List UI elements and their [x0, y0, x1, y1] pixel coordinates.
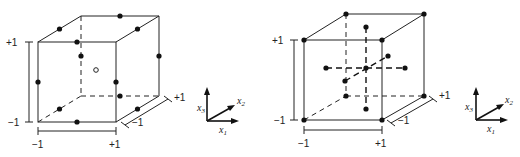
center-point	[94, 68, 99, 73]
right-cube-points	[301, 11, 426, 122]
axis-label-x1: x1	[486, 123, 495, 136]
right-axes-triad	[473, 87, 508, 123]
axis-label-x2: x2	[236, 95, 245, 108]
label-x-min: −1	[32, 139, 44, 150]
x-range-bracket	[304, 126, 382, 134]
diagram-canvas: +1 −1 −1 +1 −1 +1 x3 x2 x1	[0, 0, 520, 157]
label-z-max: +1	[6, 37, 18, 48]
center-point	[363, 65, 368, 70]
label-x-max: +1	[109, 139, 121, 150]
axis-label-x1: x1	[218, 124, 227, 137]
y-range-bracket	[121, 96, 172, 128]
left-cube-points	[35, 13, 161, 124]
z-range-bracket	[290, 40, 298, 120]
x-range-bracket	[38, 127, 116, 135]
axis-label-x3: x3	[196, 102, 205, 115]
y-range-bracket	[387, 96, 437, 126]
label-y-max: +1	[439, 90, 451, 101]
label-x-min: −1	[298, 138, 310, 149]
left-cube	[25, 16, 172, 135]
label-y-min: −1	[398, 115, 410, 126]
left-axes-triad	[204, 87, 239, 124]
label-z-min: −1	[274, 115, 286, 126]
label-x-max: +1	[375, 138, 387, 149]
label-y-min: −1	[132, 117, 144, 128]
label-z-min: −1	[8, 117, 20, 128]
z-range-bracket	[25, 42, 33, 122]
axis-label-x2: x2	[504, 94, 513, 107]
axis-label-x3: x3	[464, 101, 473, 114]
front-face	[38, 42, 116, 122]
right-cube	[290, 14, 437, 134]
left-axes-labels: x3 x2 x1	[196, 95, 245, 137]
label-y-max: +1	[174, 92, 186, 103]
label-z-max: +1	[272, 35, 284, 46]
right-axes-labels: x3 x2 x1	[464, 94, 513, 136]
